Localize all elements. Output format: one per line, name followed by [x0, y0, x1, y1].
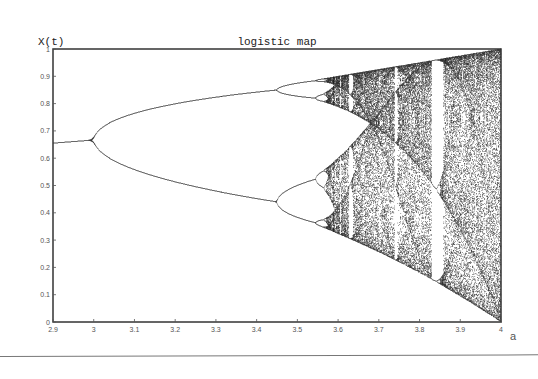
y-tick-label: 0.8 — [40, 100, 50, 107]
x-tick-label: 3.5 — [292, 326, 302, 333]
chart-title: logistic map — [237, 36, 316, 48]
y-axis-label: X(t) — [38, 36, 64, 48]
y-tick-label: 0.6 — [40, 155, 50, 162]
x-tick-label: 4 — [499, 326, 503, 333]
y-tick-label: 0.4 — [40, 209, 50, 216]
y-tick-label: 0 — [46, 319, 50, 326]
x-axis-label: a — [510, 330, 517, 342]
x-tick-label: 2.9 — [48, 326, 58, 333]
x-tick-label: 3.1 — [130, 326, 140, 333]
x-tick-label: 3.6 — [333, 326, 343, 333]
x-tick-label: 3.8 — [415, 326, 425, 333]
plot-frame — [53, 49, 501, 322]
y-tick-label: 1 — [46, 46, 50, 53]
y-tick-label: 0.9 — [40, 73, 50, 80]
y-tick-label: 0.3 — [40, 237, 50, 244]
bifurcation-chart: X(t) logistic map 2.933.13.23.33.43.53.6… — [0, 0, 538, 379]
data-points — [53, 49, 502, 322]
x-tick-label: 3.9 — [455, 326, 465, 333]
y-tick-label: 0.7 — [40, 127, 50, 134]
x-tick-label: 3.2 — [170, 326, 180, 333]
y-tick-label: 0.5 — [40, 182, 50, 189]
y-tick-label: 0.1 — [40, 291, 50, 298]
x-tick-label: 3 — [92, 326, 96, 333]
x-tick-label: 3.7 — [374, 326, 384, 333]
x-tick-label: 3.3 — [211, 326, 221, 333]
x-tick-label: 3.4 — [252, 326, 262, 333]
x-axis-ticks: 2.933.13.23.33.43.53.63.73.83.94 — [48, 319, 503, 333]
y-tick-label: 0.2 — [40, 264, 50, 271]
